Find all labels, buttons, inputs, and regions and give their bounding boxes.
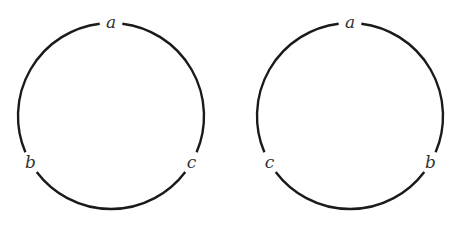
circle-arc — [122, 24, 204, 153]
vertex-label-c: c — [187, 152, 197, 172]
vertex-label-b: b — [425, 152, 436, 172]
circle-arc — [257, 24, 339, 153]
vertex-label-a: a — [345, 12, 355, 32]
circle-arc — [276, 172, 425, 209]
circle-arc — [37, 172, 186, 209]
circle-right: acb — [257, 12, 443, 209]
vertex-label-c: c — [265, 152, 275, 172]
circle-arc — [361, 24, 443, 153]
vertex-label-a: a — [106, 12, 116, 32]
circle-arc — [18, 24, 100, 153]
vertex-label-b: b — [25, 152, 36, 172]
circle-diagram: abcacb — [0, 0, 458, 227]
circle-left: abc — [18, 12, 204, 209]
